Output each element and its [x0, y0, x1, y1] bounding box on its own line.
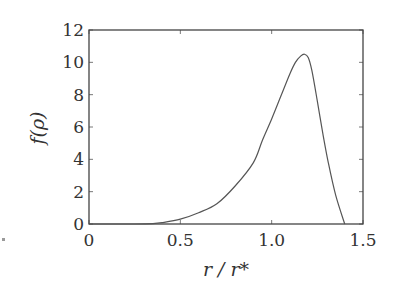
y-tick-label: 0	[73, 214, 84, 234]
x-tick-label: 1.5	[349, 230, 376, 250]
y-tick-label: 6	[73, 117, 84, 137]
y-tick-label: 2	[73, 182, 84, 202]
chart: 024681012 00.51.01.5 r / r* f(ρ)	[0, 0, 396, 299]
x-tick-label: 1.0	[258, 230, 285, 250]
y-tick-label: 8	[73, 85, 84, 105]
x-tick-label: 0.5	[167, 230, 194, 250]
y-tick-label: 12	[62, 20, 84, 40]
y-axis-label: f(ρ)	[26, 111, 48, 146]
artifact-dot	[2, 238, 5, 241]
data-curve	[89, 54, 345, 224]
x-tick-label: 0	[84, 230, 95, 250]
x-ticks: 00.51.01.5	[84, 30, 377, 250]
y-tick-label: 4	[73, 149, 84, 169]
y-tick-label: 10	[62, 52, 84, 72]
y-ticks: 024681012	[62, 20, 363, 234]
x-axis-label: r / r*	[203, 258, 250, 280]
